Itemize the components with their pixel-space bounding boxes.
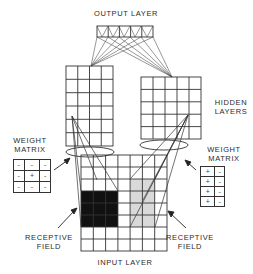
weight-cell: - — [215, 197, 225, 207]
weight-cell: - — [40, 182, 51, 193]
weight-cell: - — [40, 171, 51, 182]
weight-cell: - — [40, 160, 51, 171]
weight-matrix-left-label: WEIGHT MATRIX — [8, 136, 52, 154]
weight-cell: + — [201, 187, 215, 197]
arrows — [54, 158, 196, 228]
weight-cell: + — [201, 177, 215, 187]
weight-matrix-left: - - - - + - - - - — [13, 159, 51, 193]
weight-ellipse-left — [66, 147, 114, 157]
hidden-layer-left — [66, 66, 113, 146]
weight-cell: - — [14, 160, 25, 171]
output-hidden-connections — [91, 26, 172, 77]
receptive-field-right-label: RECEPTIVE FIELD — [163, 233, 217, 251]
weight-cell: + — [24, 171, 40, 182]
receptive-field-left-label: RECEPTIVE FIELD — [22, 233, 76, 251]
weight-cell: - — [14, 171, 25, 182]
hidden-layer-right — [141, 77, 201, 139]
weight-cell: + — [201, 167, 215, 177]
weight-cell: - — [215, 187, 225, 197]
weight-cell: - — [24, 182, 40, 193]
input-layer-label: INPUT LAYER — [84, 258, 166, 267]
receptive-field-black — [81, 191, 118, 227]
input-layer — [81, 155, 167, 251]
weight-cell: + — [201, 197, 215, 207]
weight-cell: - — [14, 182, 25, 193]
hidden-layers-label: HIDDEN LAYERS — [210, 98, 252, 116]
weight-cell: - — [215, 167, 225, 177]
weight-matrix-right-label: WEIGHT MATRIX — [202, 145, 246, 163]
weight-cell: - — [215, 177, 225, 187]
output-layer-label: OUTPUT LAYER — [84, 9, 168, 18]
weight-matrix-right: + - + - + - + - — [200, 166, 225, 207]
weight-cell: - — [24, 160, 40, 171]
